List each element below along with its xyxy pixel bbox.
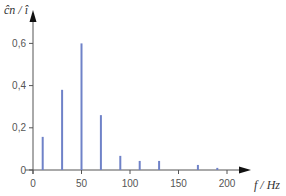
x-tick-label: 50 [76,178,88,189]
x-tick-label: 0 [30,178,36,189]
bars [43,43,218,170]
y-tick-label: 0,4 [12,80,26,91]
axes [25,10,251,174]
x-axis-arrow-icon [239,167,251,174]
x-tick-label: 200 [219,178,236,189]
y-axis-arrow-icon [30,10,37,22]
y-axis-title: ĉn / î [4,3,29,17]
y-tick-label: 0,2 [12,122,26,133]
y-tick-label: 0 [20,165,26,176]
x-axis-title: f / Hz [254,178,280,192]
x-tick-label: 150 [170,178,187,189]
labels: 00,20,40,6050100150200f / Hzĉn / î [4,3,280,192]
y-tick-label: 0,6 [12,38,26,49]
spectrum-chart: 00,20,40,6050100150200f / Hzĉn / î [0,0,286,196]
x-tick-label: 100 [122,178,139,189]
